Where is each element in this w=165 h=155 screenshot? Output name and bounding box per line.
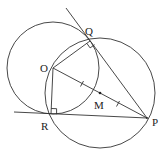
point-M-dot xyxy=(99,92,102,95)
label-O: O xyxy=(40,62,48,74)
label-Q: Q xyxy=(85,25,93,37)
diagram-canvas: O Q R P M xyxy=(0,0,165,155)
segment-OR xyxy=(51,68,53,114)
geometry-diagram: O Q R P M xyxy=(0,0,165,155)
segment-OQ xyxy=(53,41,90,68)
label-P: P xyxy=(152,116,158,128)
tangent-line-PQ xyxy=(66,8,147,118)
right-angle-marker-Q xyxy=(87,43,95,48)
tangent-line-PR xyxy=(14,112,147,118)
label-M: M xyxy=(94,99,104,111)
point-P-dot xyxy=(146,117,148,119)
label-R: R xyxy=(41,120,49,132)
